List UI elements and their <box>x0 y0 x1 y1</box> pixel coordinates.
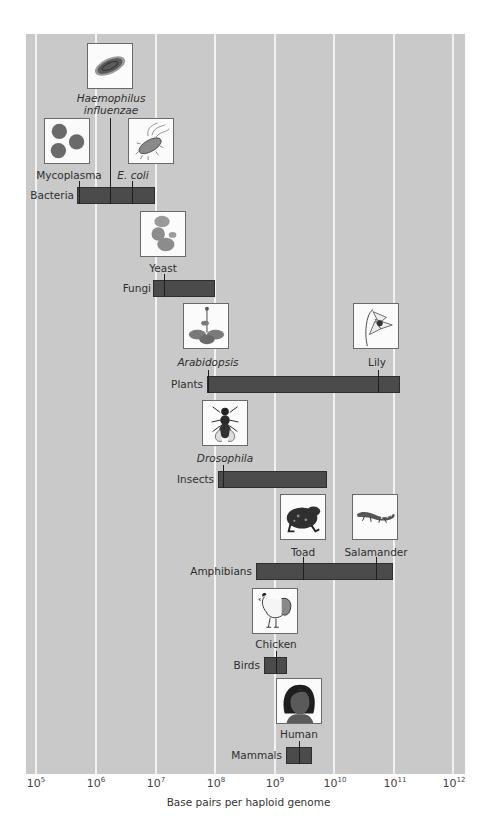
drosophila-label: Drosophila <box>197 452 253 464</box>
human-icon <box>276 678 322 724</box>
tick-exp: 6 <box>101 776 105 784</box>
tick-exp: 7 <box>161 776 165 784</box>
mycoplasma-marker <box>79 181 80 204</box>
x-tick-1e9: 109 <box>266 776 284 790</box>
chicken-label: Chicken <box>255 638 297 650</box>
tick-exp: 12 <box>457 776 466 784</box>
ecoli-icon <box>128 118 174 164</box>
tick-base: 10 <box>324 777 338 790</box>
yeast-icon <box>140 211 186 257</box>
ecoli-marker <box>132 181 133 204</box>
yeast-label: Yeast <box>149 262 177 274</box>
plants-label: Plants <box>171 376 203 393</box>
amphibians-label: Amphibians <box>190 563 252 580</box>
lily-label: Lily <box>368 356 386 368</box>
human-label: Human <box>280 728 318 740</box>
tick-exp: 5 <box>41 776 45 784</box>
tick-base: 10 <box>266 777 280 790</box>
bacteria-label: Bacteria <box>30 187 74 204</box>
arabidopsis-icon <box>183 303 229 349</box>
haemophilus-label: Haemophilus influenzae <box>77 92 146 116</box>
chicken-marker <box>276 651 277 674</box>
x-tick-1e10: 1010 <box>324 776 347 790</box>
mycoplasma-icon <box>44 118 90 164</box>
drosophila-icon <box>202 400 248 446</box>
tick-base: 10 <box>207 777 221 790</box>
tick-base: 10 <box>27 777 41 790</box>
insects-range-bar <box>218 471 327 488</box>
yeast-marker <box>164 274 165 297</box>
human-marker <box>299 741 300 764</box>
tick-exp: 8 <box>221 776 225 784</box>
gridline-1e6 <box>95 34 97 774</box>
tick-base: 10 <box>147 777 161 790</box>
haemophilus-label-line1: Haemophilus <box>77 92 146 104</box>
toad-icon <box>280 494 326 540</box>
salamander-marker <box>376 557 377 580</box>
toad-marker <box>303 557 304 580</box>
x-tick-1e8: 108 <box>207 776 225 790</box>
haemophilus-label-line2: influenzae <box>84 104 139 116</box>
gridline-1e11 <box>393 34 395 774</box>
lily-icon <box>353 303 399 349</box>
x-axis-label: Base pairs per haploid genome <box>0 796 487 808</box>
salamander-icon <box>352 494 398 540</box>
tick-base: 10 <box>384 777 398 790</box>
ecoli-label: E. coli <box>117 169 148 181</box>
bacteria-range-bar <box>77 187 155 204</box>
tick-base: 10 <box>443 777 457 790</box>
x-tick-1e6: 106 <box>87 776 105 790</box>
x-tick-1e5: 105 <box>27 776 45 790</box>
haemophilus-marker <box>110 118 111 204</box>
fungi-range-bar <box>153 280 215 297</box>
tick-exp: 11 <box>398 776 407 784</box>
insects-label: Insects <box>177 471 214 488</box>
birds-label: Birds <box>234 657 260 674</box>
mycoplasma-label: Mycoplasma <box>36 169 102 181</box>
tick-exp: 10 <box>338 776 347 784</box>
gridline-1e10 <box>333 34 335 774</box>
haemophilus-icon <box>87 43 133 89</box>
x-tick-1e7: 107 <box>147 776 165 790</box>
amphibians-range-bar <box>256 563 393 580</box>
x-tick-1e12: 1012 <box>443 776 466 790</box>
gridline-1e12 <box>452 34 454 774</box>
lily-marker <box>378 370 379 393</box>
arabidopsis-marker <box>208 370 209 393</box>
gridline-1e5 <box>35 34 37 774</box>
drosophila-marker <box>223 465 224 488</box>
arabidopsis-label: Arabidopsis <box>177 356 238 368</box>
chicken-icon <box>252 588 298 634</box>
fungi-label: Fungi <box>123 280 151 297</box>
mammals-label: Mammals <box>231 747 282 764</box>
tick-base: 10 <box>87 777 101 790</box>
plants-range-bar <box>207 376 400 393</box>
tick-exp: 9 <box>280 776 284 784</box>
x-tick-1e11: 1011 <box>384 776 407 790</box>
